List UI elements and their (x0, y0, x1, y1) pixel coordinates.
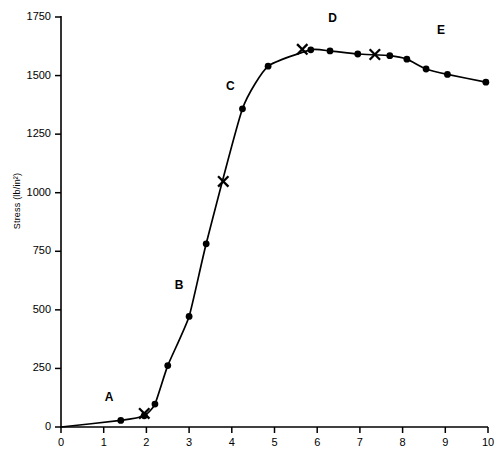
plot-area (0, 0, 497, 453)
x-tick-label: 7 (348, 436, 372, 448)
data-point (265, 63, 272, 70)
y-tick-label: 1500 (7, 69, 51, 81)
y-tick-label: 0 (7, 420, 51, 432)
x-tick-label: 1 (92, 436, 116, 448)
y-axis-ticks (55, 17, 61, 427)
x-tick-label: 0 (49, 436, 73, 448)
x-tick-label: 8 (391, 436, 415, 448)
data-point (403, 56, 410, 63)
data-point (152, 401, 159, 408)
y-tick-label: 250 (7, 361, 51, 373)
data-point (386, 52, 393, 59)
curve-label-c: C (226, 79, 235, 93)
y-tick-label: 500 (7, 303, 51, 315)
data-point (327, 48, 334, 55)
x-cross-markers (139, 44, 380, 418)
data-point (239, 105, 246, 112)
y-tick-label: 1250 (7, 127, 51, 139)
curve-label-e: E (437, 23, 445, 37)
curve-label-b: B (175, 278, 184, 292)
data-point (186, 313, 193, 320)
x-tick-label: 2 (134, 436, 158, 448)
x-tick-label: 10 (476, 436, 497, 448)
x-tick-label: 3 (177, 436, 201, 448)
x-tick-label: 5 (263, 436, 287, 448)
x-tick-label: 4 (220, 436, 244, 448)
data-point (444, 71, 451, 78)
data-point (423, 66, 430, 73)
x-axis-ticks (61, 427, 488, 433)
stress-strain-chart: Stress (lb/in²) 025050075010001250150017… (0, 0, 497, 453)
curve-label-a: A (105, 390, 114, 404)
data-point (117, 417, 124, 424)
data-point (203, 240, 210, 247)
data-point (354, 51, 361, 58)
y-axis-title: Stress (lb/in²) (12, 151, 22, 251)
data-curve (61, 49, 486, 427)
x-tick-label: 9 (433, 436, 457, 448)
axes (61, 16, 488, 427)
data-point-markers (117, 46, 489, 423)
x-tick-label: 6 (305, 436, 329, 448)
y-tick-label: 1750 (7, 10, 51, 22)
data-point (307, 46, 314, 53)
data-point (482, 79, 489, 86)
data-point (164, 362, 171, 369)
y-tick-label: 750 (7, 244, 51, 256)
y-tick-label: 1000 (7, 186, 51, 198)
curve-label-d: D (328, 11, 337, 25)
